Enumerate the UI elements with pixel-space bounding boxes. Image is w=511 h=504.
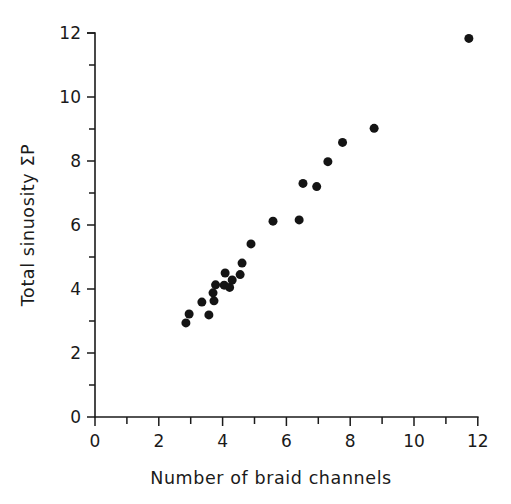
data-point bbox=[185, 309, 194, 318]
data-point bbox=[370, 124, 379, 133]
data-point bbox=[197, 298, 206, 307]
data-point bbox=[298, 179, 307, 188]
x-tick-label-8: 8 bbox=[345, 431, 356, 451]
data-point bbox=[211, 280, 220, 289]
scatter-plot-figure: 024681012024681012 Number of braid chann… bbox=[0, 0, 511, 504]
axes-group bbox=[95, 33, 478, 417]
x-tick-label-10: 10 bbox=[403, 431, 425, 451]
y-tick-label-6: 6 bbox=[70, 215, 81, 235]
data-points-group bbox=[181, 34, 473, 327]
x-tick-label-4: 4 bbox=[217, 431, 228, 451]
data-point bbox=[269, 217, 278, 226]
data-point bbox=[295, 215, 304, 224]
data-point bbox=[238, 259, 247, 268]
x-tick-label-6: 6 bbox=[281, 431, 292, 451]
data-point bbox=[228, 276, 237, 285]
y-tick-label-12: 12 bbox=[59, 23, 81, 43]
data-point bbox=[323, 157, 332, 166]
y-tick-label-4: 4 bbox=[70, 279, 81, 299]
data-point bbox=[246, 239, 255, 248]
plot-canvas: 024681012024681012 Number of braid chann… bbox=[0, 0, 511, 504]
data-point bbox=[312, 182, 321, 191]
data-point bbox=[209, 288, 218, 297]
data-point bbox=[236, 270, 245, 279]
y-tick-label-8: 8 bbox=[70, 151, 81, 171]
data-point bbox=[338, 138, 347, 147]
y-tick-label-10: 10 bbox=[59, 87, 81, 107]
tick-labels-group: 024681012024681012 bbox=[59, 23, 488, 451]
x-tick-label-2: 2 bbox=[153, 431, 164, 451]
data-point bbox=[209, 296, 218, 305]
x-axis-title: Number of braid channels bbox=[150, 468, 392, 488]
y-tick-label-0: 0 bbox=[70, 407, 81, 427]
x-tick-label-0: 0 bbox=[90, 431, 101, 451]
y-axis-title: Total sinuosity ΣP bbox=[18, 144, 38, 307]
data-point bbox=[181, 318, 190, 327]
data-point bbox=[464, 34, 473, 43]
x-tick-label-12: 12 bbox=[467, 431, 489, 451]
data-point bbox=[204, 310, 213, 319]
ticks-group bbox=[87, 33, 478, 426]
data-point bbox=[221, 269, 230, 278]
y-tick-label-2: 2 bbox=[70, 343, 81, 363]
